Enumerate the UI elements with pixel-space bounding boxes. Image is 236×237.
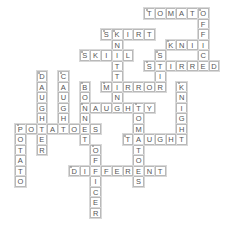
crossword-cell[interactable]: T [133, 103, 144, 114]
crossword-cell[interactable]: M [133, 124, 144, 135]
crossword-cell[interactable]: L [123, 50, 134, 61]
crossword-cell[interactable]: O [144, 82, 155, 93]
crossword-cell[interactable]: G [58, 103, 69, 114]
crossword-cell[interactable]: I [176, 103, 187, 114]
crossword-cell[interactable]: I [90, 176, 101, 187]
crossword-cell[interactable]: E [112, 166, 123, 177]
crossword-cell[interactable]: P [15, 124, 26, 135]
crossword-cell[interactable]: S [101, 29, 112, 40]
crossword-cell[interactable]: R [176, 61, 187, 72]
crossword-cell[interactable]: A [133, 134, 144, 145]
crossword-cell[interactable]: K [90, 50, 101, 61]
crossword-cell[interactable]: T [176, 134, 187, 145]
crossword-cell[interactable]: R [155, 82, 166, 93]
crossword-cell[interactable]: G [176, 113, 187, 124]
crossword-cell[interactable]: O [90, 145, 101, 156]
crossword-cell[interactable]: I [101, 50, 112, 61]
crossword-cell[interactable]: T [144, 8, 155, 19]
crossword-cell[interactable]: U [58, 92, 69, 103]
crossword-cell[interactable]: U [101, 103, 112, 114]
crossword-cell[interactable]: H [37, 113, 48, 124]
crossword-cell[interactable]: Y [144, 103, 155, 114]
crossword-cell[interactable]: E [37, 134, 48, 145]
crossword-cell[interactable]: R [133, 82, 144, 93]
crossword-cell[interactable]: A [176, 8, 187, 19]
crossword-cell[interactable]: I [166, 61, 177, 72]
crossword-cell[interactable]: H [123, 103, 134, 114]
crossword-cell[interactable]: T [133, 145, 144, 156]
crossword-cell[interactable]: U [37, 92, 48, 103]
crossword-cell[interactable]: O [15, 176, 26, 187]
crossword-cell[interactable]: A [15, 155, 26, 166]
crossword-cell[interactable]: N [144, 166, 155, 177]
crossword-cell[interactable]: D [69, 166, 80, 177]
crossword-cell[interactable]: A [58, 82, 69, 93]
crossword-cell[interactable]: I [80, 166, 91, 177]
crossword-cell[interactable]: D [37, 71, 48, 82]
crossword-cell[interactable]: A [90, 103, 101, 114]
crossword-cell[interactable]: O [26, 124, 37, 135]
crossword-cell[interactable]: S [80, 50, 91, 61]
crossword-cell[interactable]: E [90, 197, 101, 208]
crossword-cell[interactable]: K [112, 29, 123, 40]
crossword-cell[interactable]: H [166, 134, 177, 145]
crossword-cell[interactable]: T [155, 166, 166, 177]
crossword-cell[interactable]: I [198, 40, 209, 51]
crossword-cell[interactable]: R [187, 61, 198, 72]
crossword-cell[interactable]: K [176, 82, 187, 93]
crossword-cell[interactable]: T [112, 71, 123, 82]
crossword-cell[interactable]: S [155, 50, 166, 61]
crossword-cell[interactable]: T [15, 166, 26, 177]
crossword-cell[interactable]: O [133, 155, 144, 166]
crossword-cell[interactable]: H [58, 113, 69, 124]
crossword-cell[interactable]: T [144, 29, 155, 40]
crossword-cell[interactable]: S [133, 176, 144, 187]
crossword-cell[interactable]: G [112, 103, 123, 114]
crossword-cell[interactable]: C [198, 50, 209, 61]
crossword-cell[interactable]: G [155, 134, 166, 145]
crossword-cell[interactable]: S [90, 124, 101, 135]
crossword-cell[interactable]: R [123, 166, 134, 177]
crossword-cell[interactable]: T [123, 134, 134, 145]
crossword-cell[interactable]: T [37, 124, 48, 135]
crossword-cell[interactable]: E [198, 61, 209, 72]
crossword-cell[interactable]: O [69, 124, 80, 135]
crossword-cell[interactable]: N [176, 92, 187, 103]
crossword-cell[interactable]: T [187, 8, 198, 19]
crossword-cell[interactable]: I [155, 71, 166, 82]
crossword-cell[interactable]: O [198, 8, 209, 19]
crossword-cell[interactable]: K [166, 40, 177, 51]
crossword-cell[interactable]: F [90, 166, 101, 177]
crossword-cell[interactable]: T [58, 124, 69, 135]
crossword-cell[interactable]: T [112, 61, 123, 72]
crossword-cell[interactable]: A [47, 124, 58, 135]
crossword-cell[interactable]: A [37, 82, 48, 93]
crossword-cell[interactable]: O [15, 134, 26, 145]
crossword-cell[interactable]: N [80, 103, 91, 114]
crossword-cell[interactable]: N [176, 40, 187, 51]
crossword-cell[interactable]: C [58, 71, 69, 82]
crossword-cell[interactable]: O [133, 113, 144, 124]
crossword-cell[interactable]: N [112, 92, 123, 103]
crossword-cell[interactable]: M [101, 82, 112, 93]
crossword-cell[interactable]: C [90, 187, 101, 198]
crossword-cell[interactable]: N [80, 113, 91, 124]
crossword-cell[interactable]: O [155, 8, 166, 19]
crossword-cell[interactable]: R [90, 208, 101, 219]
crossword-cell[interactable]: E [133, 166, 144, 177]
crossword-cell[interactable]: N [112, 40, 123, 51]
crossword-cell[interactable]: S [144, 61, 155, 72]
crossword-cell[interactable]: H [176, 124, 187, 135]
crossword-cell[interactable]: E [80, 124, 91, 135]
crossword-cell[interactable]: I [187, 40, 198, 51]
crossword-cell[interactable]: M [166, 8, 177, 19]
crossword-cell[interactable]: O [80, 92, 91, 103]
crossword-cell[interactable]: T [80, 134, 91, 145]
crossword-cell[interactable]: F [90, 155, 101, 166]
crossword-cell[interactable]: T [155, 61, 166, 72]
crossword-cell[interactable]: I [112, 50, 123, 61]
crossword-cell[interactable]: F [101, 166, 112, 177]
crossword-cell[interactable]: F [198, 19, 209, 30]
crossword-cell[interactable]: R [37, 145, 48, 156]
crossword-cell[interactable]: I [123, 29, 134, 40]
